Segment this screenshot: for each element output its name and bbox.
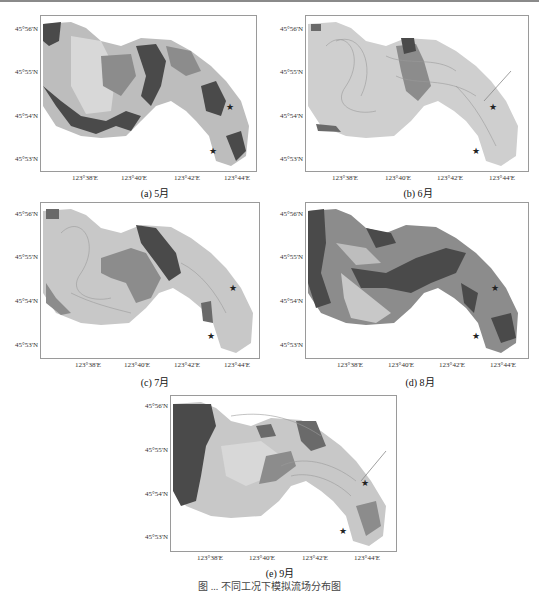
lake-map [41, 203, 259, 358]
y-tick: 45°53'N [130, 533, 168, 541]
map-frame: ★ ★ [305, 202, 529, 359]
y-tick: 45°56'N [0, 25, 38, 33]
x-tick: 123°38'E [197, 554, 223, 562]
outlet-star-icon: ★ [472, 331, 480, 341]
x-tick: 123°40'E [124, 361, 150, 369]
y-tick: 45°54'N [0, 297, 38, 305]
panel-d: ★ ★ 45°56'N 45°55'N 45°54'N 45°53'N 123°… [270, 200, 539, 390]
y-tick: 45°54'N [265, 112, 303, 120]
x-tick: 123°44'E [354, 554, 380, 562]
panel-caption: (a) 5月 [141, 185, 170, 200]
panel-e: ★ ★ 45°56'N 45°55'N 45°54'N 45°53'N 123°… [130, 390, 410, 575]
y-tick: 45°55'N [130, 446, 168, 454]
panel-a: ★ ★ 45°56'N 45°55'N 45°54'N 45°53'N 123°… [0, 0, 270, 200]
map-frame: ★ ★ [40, 15, 257, 172]
x-tick: 123°40'E [249, 554, 275, 562]
x-tick: 123°42'E [439, 361, 465, 369]
y-tick: 45°54'N [265, 297, 303, 305]
panel-caption: (d) 8月 [405, 374, 434, 389]
y-tick: 45°53'N [265, 155, 303, 163]
y-tick: 45°53'N [0, 341, 38, 349]
x-tick: 123°40'E [385, 174, 411, 182]
panel-c: ★ ★ 45°56'N 45°55'N 45°54'N 45°53'N 123°… [0, 200, 270, 390]
panel-b: ★ ★ 45°56'N 45°55'N 45°54'N 45°53'N 123°… [270, 0, 539, 200]
map-frame: ★ ★ [170, 395, 397, 552]
x-tick: 123°38'E [72, 174, 98, 182]
outlet-star-icon: ★ [472, 146, 480, 156]
y-tick: 45°54'N [0, 112, 38, 120]
x-tick: 123°40'E [121, 174, 147, 182]
x-tick: 123°44'E [490, 361, 516, 369]
x-tick: 123°42'E [174, 174, 200, 182]
x-tick: 123°38'E [332, 174, 358, 182]
map-frame: ★ ★ [305, 15, 529, 172]
inlet-star-icon: ★ [489, 102, 497, 112]
lake-map [306, 203, 528, 358]
outlet-star-icon: ★ [209, 146, 217, 156]
inlet-star-icon: ★ [491, 283, 499, 293]
map-frame: ★ ★ [40, 202, 260, 359]
x-tick: 123°40'E [388, 361, 414, 369]
panel-caption: (c) 7月 [141, 374, 170, 389]
inlet-star-icon: ★ [361, 478, 369, 488]
y-tick: 45°54'N [130, 490, 168, 498]
y-tick: 45°55'N [265, 68, 303, 76]
y-tick: 45°53'N [0, 155, 38, 163]
panel-caption: (b) 6月 [403, 185, 432, 200]
y-tick: 45°56'N [265, 210, 303, 218]
x-tick: 123°42'E [174, 361, 200, 369]
x-tick: 123°44'E [224, 174, 250, 182]
y-tick: 45°53'N [265, 341, 303, 349]
lake-map [41, 16, 256, 171]
outlet-star-icon: ★ [207, 331, 215, 341]
y-tick: 45°55'N [265, 253, 303, 261]
y-tick: 45°55'N [0, 68, 38, 76]
x-tick: 123°38'E [337, 361, 363, 369]
x-tick: 123°44'E [489, 174, 515, 182]
x-tick: 123°42'E [437, 174, 463, 182]
y-tick: 45°56'N [0, 210, 38, 218]
lake-map [171, 396, 396, 551]
x-tick: 123°44'E [224, 361, 250, 369]
lake-map [306, 16, 528, 171]
inlet-star-icon: ★ [229, 283, 237, 293]
x-tick: 123°42'E [302, 554, 328, 562]
inlet-star-icon: ★ [226, 102, 234, 112]
y-tick: 45°56'N [265, 25, 303, 33]
y-tick: 45°55'N [0, 253, 38, 261]
y-tick: 45°56'N [130, 402, 168, 410]
figure-caption: 图 ... 不同工况下模拟流场分布图 [198, 578, 341, 593]
outlet-star-icon: ★ [339, 526, 347, 536]
x-tick: 123°38'E [75, 361, 101, 369]
